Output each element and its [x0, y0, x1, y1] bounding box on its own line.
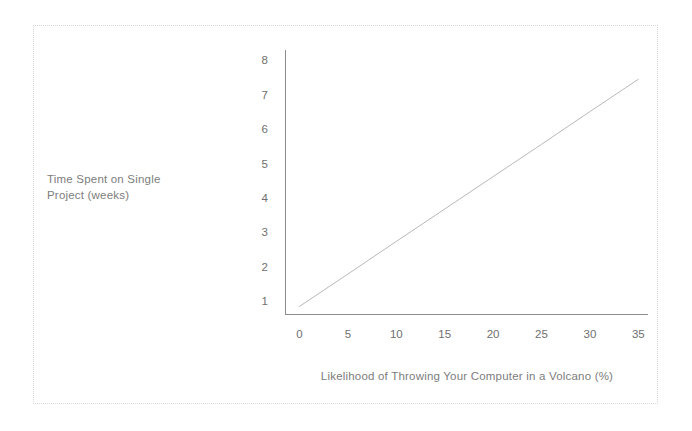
y-tick-label: 4	[238, 192, 268, 204]
x-axis-label: Likelihood of Throwing Your Computer in …	[285, 370, 649, 382]
x-tick-label: 35	[618, 328, 658, 340]
x-tick-label: 20	[473, 328, 513, 340]
y-tick-label: 3	[238, 226, 268, 238]
axis-spines	[285, 50, 648, 315]
x-tick-label: 15	[425, 328, 465, 340]
line-chart-svg	[285, 50, 648, 315]
y-axis-label-line-2: Project (weeks)	[47, 187, 237, 203]
y-tick-label: 2	[238, 261, 268, 273]
y-axis-label-line-1: Time Spent on Single	[47, 171, 237, 187]
data-series-group	[300, 79, 639, 306]
x-tick-label: 5	[328, 328, 368, 340]
y-axis-label: Time Spent on Single Project (weeks)	[47, 171, 237, 203]
x-tick-label: 0	[280, 328, 320, 340]
x-tick-label: 10	[376, 328, 416, 340]
chart-figure: Time Spent on Single Project (weeks) Lik…	[0, 0, 692, 431]
y-tick-label: 1	[238, 295, 268, 307]
x-tick-label: 25	[522, 328, 562, 340]
plot-area	[285, 50, 648, 315]
x-tick-label: 30	[570, 328, 610, 340]
y-tick-label: 5	[238, 158, 268, 170]
series-line-0	[300, 79, 639, 306]
y-tick-label: 8	[238, 54, 268, 66]
y-tick-label: 6	[238, 123, 268, 135]
y-tick-label: 7	[238, 89, 268, 101]
